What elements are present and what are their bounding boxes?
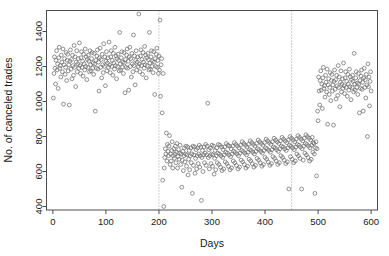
x-axis-tick-label: 0 [50,216,55,227]
y-axis-tick-label: 1400 [33,21,44,42]
x-axis-tick-label: 200 [151,216,167,227]
y-axis-title: No. of canceled trades [2,57,14,162]
scatter-plot-figure: 400600800100012001400 010020030040050060… [0,0,389,256]
plot-canvas: 400600800100012001400 010020030040050060… [0,0,389,256]
x-axis-title: Days [200,237,224,249]
x-axis-tick-label: 100 [98,216,114,227]
x-axis-tick-label: 300 [204,216,220,227]
x-axis-tick-label: 600 [363,216,379,227]
y-axis-tick-label: 600 [33,164,44,180]
y-axis-tick-label: 1000 [33,91,44,112]
figure-background [0,0,389,256]
x-axis-tick-label: 500 [310,216,326,227]
y-axis-tick-label: 1200 [33,56,44,77]
y-axis-tick-label: 800 [33,129,44,145]
x-axis-tick-label: 400 [257,216,273,227]
y-axis-tick-label: 400 [33,199,44,215]
